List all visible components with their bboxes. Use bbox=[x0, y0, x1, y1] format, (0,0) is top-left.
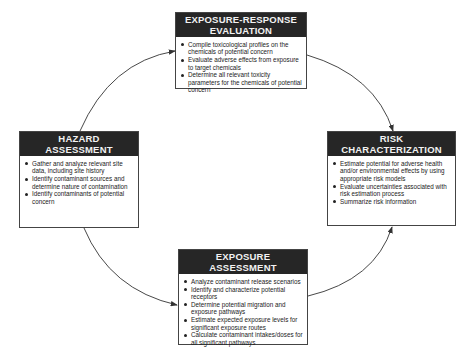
list-item: Determine all relevant toxicity paramete… bbox=[188, 71, 302, 93]
box-title: HAZARD bbox=[22, 133, 136, 144]
box-title: ASSESSMENT bbox=[22, 144, 136, 155]
list-item: Analyze contaminant release scenarios bbox=[191, 278, 303, 285]
list-item: Calculate contaminant intakes/doses for … bbox=[191, 331, 303, 346]
box-header: EXPOSURE ASSESSMENT bbox=[179, 250, 307, 274]
box-title: ASSESSMENT bbox=[181, 262, 305, 273]
arrow-hazard-to-exposure-response bbox=[80, 51, 175, 131]
list-item: Identify and characterize potential rece… bbox=[191, 286, 303, 301]
box-header: RISK CHARACTERIZATION bbox=[328, 132, 455, 156]
bullet-list: Gather and analyze relevant site data, i… bbox=[20, 156, 138, 208]
list-item: Summarize risk information bbox=[340, 198, 451, 205]
box-title: EXPOSURE-RESPONSE bbox=[178, 14, 304, 25]
list-item: Identify contaminants of potential conce… bbox=[32, 190, 134, 205]
box-title: CHARACTERIZATION bbox=[330, 144, 453, 155]
list-item: Evaluate uncertainties associated with r… bbox=[340, 183, 451, 198]
box-title: EXPOSURE bbox=[181, 251, 305, 262]
arrow-exposure-to-risk bbox=[308, 227, 392, 296]
list-item: Estimate expected exposure levels for si… bbox=[191, 316, 303, 331]
list-item: Identify contaminant sources and determi… bbox=[32, 175, 134, 190]
list-item: Estimate potential for adverse health an… bbox=[340, 160, 451, 182]
list-item: Determine potential migration and exposu… bbox=[191, 301, 303, 316]
list-item: Evaluate adverse effects from exposure t… bbox=[188, 56, 302, 71]
list-item: Gather and analyze relevant site data, i… bbox=[32, 160, 134, 175]
box-header: EXPOSURE-RESPONSE EVALUATION bbox=[176, 13, 306, 37]
bullet-list: Estimate potential for adverse health an… bbox=[328, 156, 455, 208]
risk-characterization-box: RISK CHARACTERIZATION Estimate potential… bbox=[327, 131, 456, 226]
box-title: RISK bbox=[330, 133, 453, 144]
hazard-assessment-box: HAZARD ASSESSMENT Gather and analyze rel… bbox=[19, 131, 139, 228]
bullet-list: Analyze contaminant release scenarios Id… bbox=[179, 274, 307, 349]
arrow-hazard-to-exposure bbox=[84, 228, 177, 305]
box-title: EVALUATION bbox=[178, 25, 304, 36]
bullet-list: Compile toxicological profiles on the ch… bbox=[176, 37, 306, 96]
exposure-response-evaluation-box: EXPOSURE-RESPONSE EVALUATION Compile tox… bbox=[175, 12, 307, 89]
exposure-assessment-box: EXPOSURE ASSESSMENT Analyze contaminant … bbox=[178, 249, 308, 345]
arrow-exposure-response-to-risk bbox=[307, 55, 393, 131]
list-item: Compile toxicological profiles on the ch… bbox=[188, 41, 302, 56]
box-header: HAZARD ASSESSMENT bbox=[20, 132, 138, 156]
